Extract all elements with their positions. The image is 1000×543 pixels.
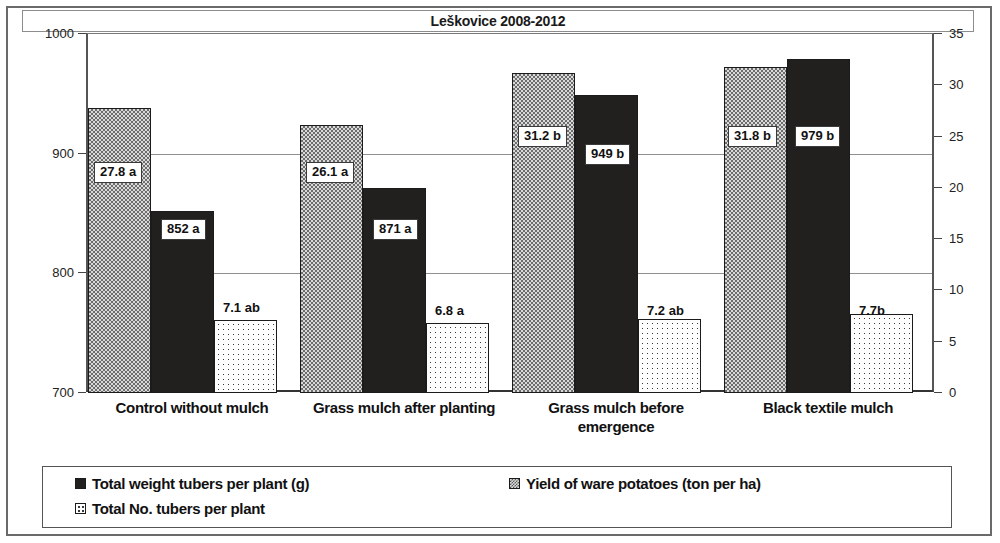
bar[interactable] [575,95,638,393]
legend-swatch-solid-icon [75,478,86,489]
right-axis-tick-mark [934,136,942,137]
data-label: 26.1 a [306,162,354,183]
data-label: 949 b [585,144,630,165]
right-axis-tick-mark [934,238,942,239]
right-axis-tick-mark [934,33,942,34]
bar[interactable] [512,73,575,393]
legend-item[interactable]: Total No. tubers per plant [75,500,265,517]
bar[interactable] [724,67,787,393]
data-label: 7.1 ab [218,299,265,318]
data-label: 27.8 a [94,162,142,183]
legend-item-label: Total No. tubers per plant [92,500,265,517]
chart-title-box: Leškovice 2008-2012 [22,10,974,32]
right-axis-tick-label: 10 [949,282,989,297]
right-axis-tick-mark [934,341,942,342]
category-label: Grass mulch before emergence [510,398,722,436]
right-axis-tick-mark [934,187,942,188]
bar[interactable] [787,59,850,393]
chart-legend: Total weight tubers per plant (g)Yield o… [42,466,952,528]
right-axis-tick-label: 20 [949,179,989,194]
legend-swatch-checker-icon [509,478,520,489]
right-axis-tick-label: 0 [949,385,989,400]
chart-container: Leškovice 2008-2012 7008009001000 051015… [0,0,1000,543]
legend-item[interactable]: Yield of ware potatoes (ton per ha) [509,475,761,492]
right-axis-tick-label: 5 [949,333,989,348]
right-axis-tick-label: 15 [949,231,989,246]
left-axis-tick-mark [78,33,86,34]
right-axis-tick-mark [934,84,942,85]
data-label: 852 a [161,219,206,240]
data-label: 871 a [373,219,418,240]
data-label: 31.8 b [728,126,777,147]
data-label: 7.2 ab [642,302,689,321]
left-axis-tick-label: 1000 [22,26,74,41]
page-title: Leškovice 2008-2012 [431,13,566,29]
legend-item[interactable]: Total weight tubers per plant (g) [75,475,309,492]
left-axis-tick-label: 900 [22,145,74,160]
data-label: 31.2 b [518,126,567,147]
right-axis-tick-label: 35 [949,26,989,41]
plot-area: 27.8 a852 a7.1 ab26.1 a871 a6.8 a31.2 b9… [86,33,934,392]
left-axis-tick-label: 700 [22,385,74,400]
right-axis-tick-mark [934,289,942,290]
category-label: Grass mulch after planting [299,398,509,417]
data-label: 6.8 a [430,302,469,321]
left-axis-tick-label: 800 [22,265,74,280]
left-axis-tick-mark [78,153,86,154]
left-axis-tick-mark [78,392,86,393]
data-label: 7.7b [854,302,890,321]
left-axis-tick-mark [78,272,86,273]
bar[interactable] [426,323,489,393]
category-label: Black textile mulch [722,398,934,417]
right-axis-tick-label: 30 [949,77,989,92]
category-label: Control without mulch [92,398,292,417]
bar[interactable] [638,319,701,393]
legend-item-label: Total weight tubers per plant (g) [92,475,309,492]
legend-item-label: Yield of ware potatoes (ton per ha) [526,475,761,492]
legend-swatch-dotted-icon [75,503,86,514]
right-axis-tick-label: 25 [949,128,989,143]
bar[interactable] [214,320,277,393]
bar[interactable] [850,314,913,393]
bar[interactable] [88,108,151,393]
right-axis-tick-mark [934,392,942,393]
data-label: 979 b [795,126,840,147]
